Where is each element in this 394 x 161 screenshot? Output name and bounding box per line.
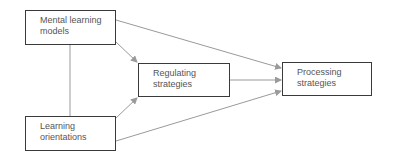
node-label: Mental learning models [40, 15, 115, 37]
node-label: Learning orientations [40, 121, 115, 143]
node-learning-orientations: Learning orientations [25, 116, 116, 151]
edge-mental-proc [116, 20, 281, 68]
edge-mental-regul [116, 42, 137, 62]
edge-orient-regul [116, 98, 137, 118]
node-label: Regulating strategies [153, 68, 229, 90]
node-label: Processing strategies [297, 67, 371, 89]
node-mental-learning-models: Mental learning models [25, 10, 116, 45]
edge-orient-proc [116, 91, 281, 141]
node-processing-strategies: Processing strategies [282, 62, 372, 96]
node-regulating-strategies: Regulating strategies [138, 63, 230, 97]
